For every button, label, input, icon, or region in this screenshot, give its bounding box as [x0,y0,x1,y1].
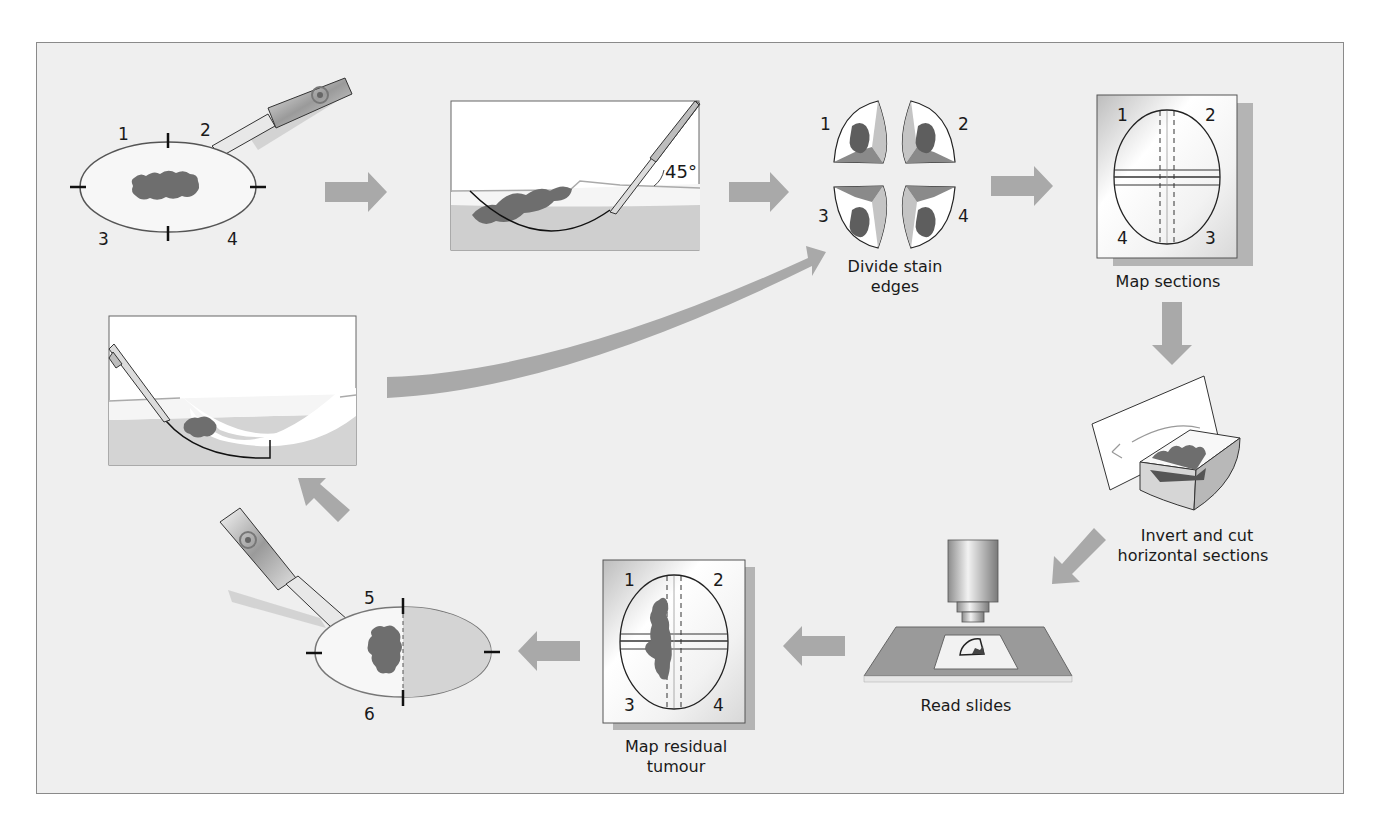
cleared-half [403,607,491,697]
flow-arrow-left [518,631,580,671]
flow-arrow-right [729,172,789,212]
mohs-diagram: 1 2 3 4 45° [0,0,1381,840]
step-caption: tumour [647,757,706,776]
quadrant-label: 2 [958,114,969,134]
quadrant-label: 3 [1205,228,1216,248]
step-caption: Divide stain [848,257,943,276]
quadrant-label: 4 [958,206,969,226]
step-map-residual: 1 2 3 4 Map residual tumour [603,560,755,776]
step-divide-stain: 1 2 3 4 Divide stain edges [818,101,969,296]
microscope-icon [948,540,998,622]
step-caption: Invert and cut [1141,526,1254,545]
flow-arrow-right [991,166,1053,206]
quadrant-label: 2 [200,120,211,140]
quadrant-label: 1 [118,124,129,144]
step-caption: Map sections [1116,272,1221,291]
flow-arrow-left [783,626,845,666]
angle-label: 45° [665,161,697,182]
quadrant-label: 2 [713,570,724,590]
scalpel-icon [212,78,352,156]
quadrant-label: 4 [227,229,238,249]
step-caption: horizontal sections [1118,546,1269,565]
margin-label: 5 [364,588,375,608]
step-caption: Map residual [625,737,727,756]
quadrant-label: 4 [713,695,724,715]
flow-arrow-down [1152,302,1192,365]
step-caption: Read slides [921,696,1012,715]
quadrant-label: 4 [1117,228,1128,248]
step-invert-cut: Invert and cut horizontal sections [1092,376,1268,565]
step-re-excise: 5 6 [220,508,500,724]
flow-arrow-curved [387,246,826,398]
quadrant-label: 2 [1205,105,1216,125]
tissue-quadrant-1 [834,101,887,163]
glass-slide [864,627,1072,682]
step-excise-45: 45° [451,101,700,250]
quadrant-label: 3 [624,695,635,715]
step-read-slides: Read slides [864,540,1072,715]
tumour [132,171,199,200]
flow-arrow-right [325,172,387,212]
flow-arrow-up-left [298,478,350,522]
tissue-quadrant-3 [834,186,887,248]
step-caption: edges [871,277,919,296]
quadrant-label: 1 [624,570,635,590]
tissue-quadrant-2 [902,101,955,163]
tissue-quadrant-4 [902,186,955,248]
quadrant-label: 1 [820,114,831,134]
flow-arrow-down-left [1052,528,1106,584]
step-mark-specimen: 1 2 3 4 [70,78,352,249]
step-re-excision-profile [109,316,356,465]
quadrant-label: 3 [98,229,109,249]
quadrant-label: 1 [1117,105,1128,125]
step-map-sections: 1 2 4 3 Map sections [1097,95,1253,291]
quadrant-label: 3 [818,206,829,226]
margin-label: 6 [364,704,375,724]
